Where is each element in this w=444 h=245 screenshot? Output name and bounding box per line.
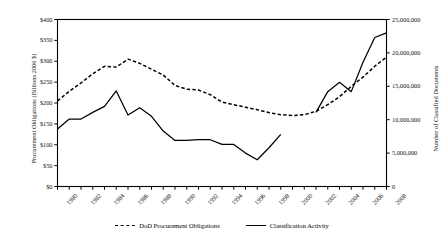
y-axis-left-tick-label: $0	[8, 183, 53, 190]
y-axis-left-tick-label: $50	[8, 162, 53, 169]
y-axis-right-tick-label: 25,000,000	[392, 16, 420, 23]
legend-label: Classification Activity	[270, 222, 329, 229]
legend-solid-line-icon	[246, 225, 266, 226]
series-line-2	[316, 33, 387, 112]
legend-label: DoD Procurement Obligations	[139, 222, 220, 229]
chart-container: Procurement Obligations (Billions 2006 $…	[0, 0, 444, 245]
y-axis-right-tick-label: 20,000,000	[392, 49, 420, 56]
y-axis-left-tick-label: $300	[8, 57, 53, 64]
y-axis-left-tick-label: $400	[8, 16, 53, 23]
tick-marks	[54, 20, 389, 190]
legend-item[interactable]: Classification Activity	[246, 222, 329, 229]
y-axis-left-tick-label: $250	[8, 78, 53, 85]
y-axis-left-tick-label: $200	[8, 99, 53, 106]
y-axis-left-tick-label: $100	[8, 141, 53, 148]
plot-area	[0, 0, 444, 245]
y-axis-right-tick-label: 10,000,000	[392, 116, 420, 123]
y-axis-right-tick-label: 5,000,000	[392, 149, 417, 156]
y-axis-right-tick-label: 15,000,000	[392, 82, 420, 89]
y-axis-right-tick-label: 0	[392, 183, 395, 190]
chart-legend: DoD Procurement ObligationsClassificatio…	[0, 222, 444, 229]
series-line-2	[58, 91, 281, 160]
legend-dashed-line-icon	[115, 225, 135, 226]
y-axis-left-tick-label: $350	[8, 36, 53, 43]
data-series	[58, 33, 387, 160]
series-line-1	[58, 57, 387, 115]
legend-item[interactable]: DoD Procurement Obligations	[115, 222, 220, 229]
y-axis-left-tick-label: $150	[8, 120, 53, 127]
